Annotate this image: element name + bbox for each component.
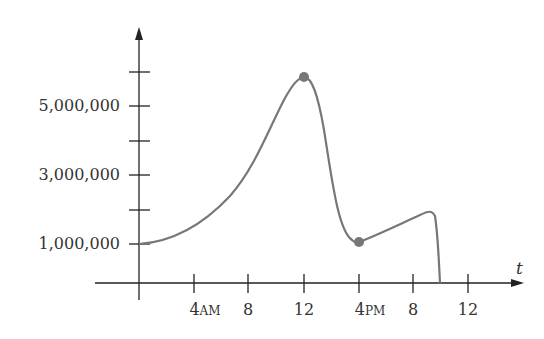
max-point — [299, 72, 309, 82]
x-tick-label-8am: 8 — [218, 300, 278, 319]
x-axis-arrow-icon — [511, 279, 524, 287]
y-tick-label-1m: 1,000,000 — [10, 234, 120, 253]
data-curve — [139, 77, 440, 283]
x-axis-label: t — [516, 258, 523, 278]
x-tick-label-12am: 12 — [438, 300, 498, 319]
y-axis-arrow-icon — [135, 27, 143, 40]
x-tick-label-12pm: 12 — [274, 300, 334, 319]
y-tick-label-5m: 5,000,000 — [10, 96, 120, 115]
x-tick-label-8pm: 8 — [383, 300, 443, 319]
min-point — [354, 237, 364, 247]
y-tick-label-3m: 3,000,000 — [10, 165, 120, 184]
